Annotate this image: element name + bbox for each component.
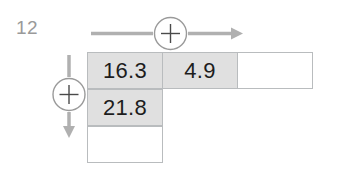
grid-cell[interactable]: 16.3: [87, 52, 163, 89]
vertical-add-arrow: [53, 55, 85, 138]
grid-row: 16.3 4.9: [88, 53, 316, 90]
grid-cell-placeholder: [162, 126, 238, 163]
grid-cell[interactable]: [87, 126, 163, 163]
grid-cell-placeholder: [162, 89, 238, 126]
vertical-arrowhead-icon: [63, 126, 75, 138]
grid-cell-placeholder: [237, 89, 313, 126]
grid-row: 21.8: [88, 90, 316, 127]
horizontal-arrowhead-icon: [231, 28, 243, 40]
grid-cell-placeholder: [237, 126, 313, 163]
grid-row: [88, 127, 316, 164]
number-grid: 16.3 4.9 21.8: [88, 53, 316, 163]
grid-cell[interactable]: 21.8: [87, 89, 163, 126]
worksheet-canvas: 12 16.3 4.9 21.8: [0, 0, 337, 174]
horizontal-add-arrow: [91, 18, 243, 50]
grid-cell[interactable]: 4.9: [162, 52, 238, 89]
grid-cell[interactable]: [237, 52, 313, 89]
